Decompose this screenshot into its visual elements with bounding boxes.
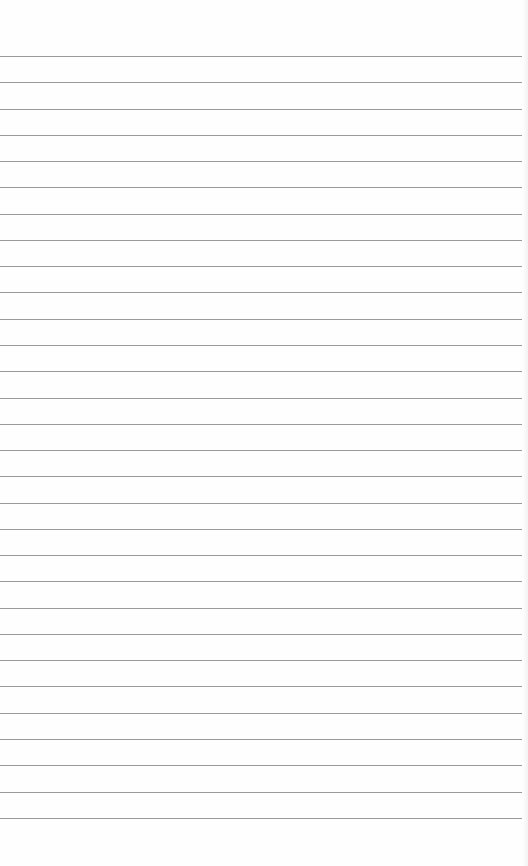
ruled-line xyxy=(0,739,522,740)
ruled-line xyxy=(0,161,522,162)
ruled-line xyxy=(0,56,522,57)
ruled-line xyxy=(0,292,522,293)
ruled-line xyxy=(0,529,522,530)
ruled-line xyxy=(0,240,522,241)
ruled-line xyxy=(0,424,522,425)
ruled-line xyxy=(0,686,522,687)
ruled-line xyxy=(0,319,522,320)
ruled-line xyxy=(0,713,522,714)
ruled-line xyxy=(0,608,522,609)
ruled-line xyxy=(0,660,522,661)
page-edge-shadow xyxy=(522,0,528,866)
ruled-line xyxy=(0,371,522,372)
ruled-line xyxy=(0,398,522,399)
ruled-line xyxy=(0,266,522,267)
ruled-line xyxy=(0,187,522,188)
ruled-line xyxy=(0,345,522,346)
ruled-line xyxy=(0,581,522,582)
ruled-line xyxy=(0,765,522,766)
lined-paper-page xyxy=(0,0,528,866)
ruled-line xyxy=(0,634,522,635)
ruled-line xyxy=(0,450,522,451)
ruled-line xyxy=(0,82,522,83)
ruled-line xyxy=(0,109,522,110)
ruled-line xyxy=(0,214,522,215)
ruled-line xyxy=(0,818,522,819)
ruled-line xyxy=(0,555,522,556)
ruled-line xyxy=(0,476,522,477)
ruled-line xyxy=(0,135,522,136)
ruled-line xyxy=(0,792,522,793)
ruled-line xyxy=(0,503,522,504)
